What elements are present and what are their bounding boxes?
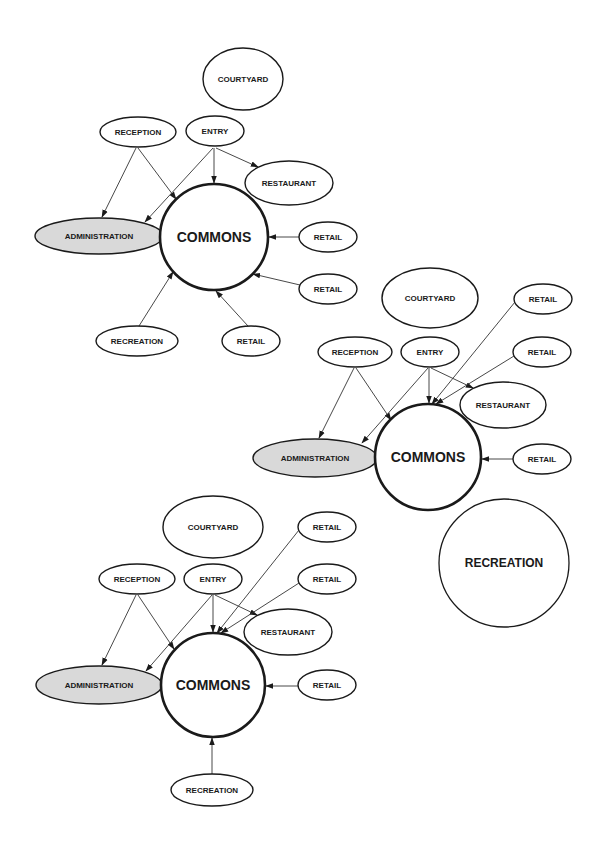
node-administration: ADMINISTRATION bbox=[36, 666, 162, 704]
node-retail-a: RETAIL bbox=[298, 512, 356, 542]
node-commons: COMMONS bbox=[161, 633, 265, 737]
node-label: RESTAURANT bbox=[476, 401, 531, 410]
node-reception: RECEPTION bbox=[100, 117, 176, 147]
node-restaurant: RESTAURANT bbox=[460, 382, 546, 428]
node-label: RECEPTION bbox=[114, 575, 161, 584]
edge-reception-to-administration bbox=[319, 368, 354, 438]
edge-entry-to-restaurant bbox=[216, 148, 258, 167]
node-retail-c: RETAIL bbox=[513, 444, 571, 474]
edge-entry-to-restaurant bbox=[215, 595, 257, 615]
node-label: COMMONS bbox=[177, 229, 252, 245]
node-label: RESTAURANT bbox=[262, 179, 317, 188]
edge-retail-2-to-commons bbox=[253, 274, 300, 285]
node-recreation: RECREATION bbox=[439, 499, 569, 627]
node-restaurant: RESTAURANT bbox=[244, 609, 332, 655]
edge-reception-to-administration bbox=[102, 148, 136, 217]
node-label: RETAIL bbox=[313, 575, 341, 584]
node-reception: RECEPTION bbox=[99, 564, 175, 594]
node-courtyard: COURTYARD bbox=[382, 268, 478, 328]
edge-reception-to-commons bbox=[356, 368, 391, 420]
node-label: COURTYARD bbox=[218, 75, 269, 84]
node-label: RECREATION bbox=[186, 786, 239, 795]
diagram-scheme-3: COURTYARDRETAILRECEPTIONENTRYRETAILRESTA… bbox=[36, 496, 356, 806]
node-commons: COMMONS bbox=[375, 404, 481, 510]
node-administration: ADMINISTRATION bbox=[253, 439, 377, 477]
node-label: ADMINISTRATION bbox=[281, 454, 350, 463]
node-label: COURTYARD bbox=[405, 294, 456, 303]
node-label: COMMONS bbox=[176, 677, 251, 693]
diagram-scheme-1: COURTYARDRECEPTIONENTRYRESTAURANTADMINIS… bbox=[35, 48, 357, 356]
node-retail-2: RETAIL bbox=[299, 274, 357, 304]
node-courtyard: COURTYARD bbox=[163, 496, 263, 558]
node-retail-1: RETAIL bbox=[299, 222, 357, 252]
node-recreation: RECREATION bbox=[96, 326, 178, 356]
node-entry: ENTRY bbox=[401, 337, 459, 367]
node-label: RETAIL bbox=[314, 233, 342, 242]
node-entry: ENTRY bbox=[184, 564, 242, 594]
node-retail-a: RETAIL bbox=[514, 284, 572, 314]
node-label: ENTRY bbox=[200, 575, 227, 584]
node-label: ADMINISTRATION bbox=[65, 681, 134, 690]
node-commons: COMMONS bbox=[160, 184, 268, 290]
node-reception: RECEPTION bbox=[318, 337, 392, 367]
node-recreation: RECREATION bbox=[171, 774, 253, 806]
edge-recreation-to-commons bbox=[139, 272, 173, 326]
node-label: RETAIL bbox=[528, 455, 556, 464]
node-retail-c: RETAIL bbox=[298, 670, 356, 700]
node-label: RETAIL bbox=[529, 295, 557, 304]
node-entry: ENTRY bbox=[186, 116, 244, 146]
node-label: COMMONS bbox=[391, 449, 466, 465]
edge-reception-to-commons bbox=[138, 148, 176, 199]
node-restaurant: RESTAURANT bbox=[245, 161, 333, 205]
node-label: RESTAURANT bbox=[261, 628, 316, 637]
node-label: RETAIL bbox=[314, 285, 342, 294]
node-label: ADMINISTRATION bbox=[65, 232, 134, 241]
node-label: ENTRY bbox=[417, 348, 444, 357]
edge-retail-3-to-commons bbox=[216, 291, 248, 326]
node-retail-b: RETAIL bbox=[513, 337, 571, 367]
node-courtyard: COURTYARD bbox=[203, 48, 283, 110]
node-label: RECEPTION bbox=[332, 348, 379, 357]
node-retail-3: RETAIL bbox=[222, 326, 280, 356]
node-label: RETAIL bbox=[313, 681, 341, 690]
node-retail-b: RETAIL bbox=[298, 564, 356, 594]
node-label: RECREATION bbox=[465, 556, 543, 570]
edge-reception-to-commons bbox=[138, 595, 174, 649]
node-administration: ADMINISTRATION bbox=[35, 218, 163, 254]
node-label: COURTYARD bbox=[188, 523, 239, 532]
node-label: RETAIL bbox=[528, 348, 556, 357]
node-label: RECEPTION bbox=[115, 128, 162, 137]
node-label: RETAIL bbox=[313, 523, 341, 532]
diagram-canvas: COURTYARDRECEPTIONENTRYRESTAURANTADMINIS… bbox=[0, 0, 603, 844]
node-label: RETAIL bbox=[237, 337, 265, 346]
node-label: RECREATION bbox=[111, 337, 164, 346]
node-label: ENTRY bbox=[202, 127, 229, 136]
edge-reception-to-administration bbox=[102, 595, 136, 665]
